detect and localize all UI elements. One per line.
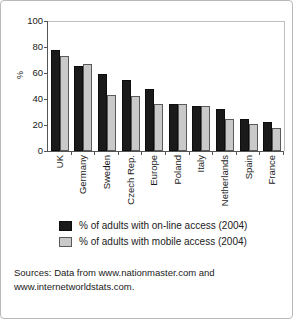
bar-online [216,109,225,151]
x-axis-tick [283,151,284,155]
bar-series-container [48,21,284,151]
bar-group [119,21,143,151]
x-axis-tick-labels: UKGermanySwedenCzech Rep.EuropePolandIta… [47,153,283,215]
chart-figure: % 100806040200 UKGermanySwedenCzech Rep.… [0,0,293,319]
bar-online [263,122,272,151]
x-tick-label: Czech Rep. [118,153,142,215]
x-tick-label-text: Spain [242,155,253,179]
bar-online [98,74,107,151]
x-tick-label-text: Italy [195,155,206,172]
y-axis-tick [44,151,48,152]
bar-mobile [83,64,92,151]
bar-mobile [201,106,210,152]
x-tick-label: France [259,153,283,215]
plot-right-border [284,21,285,151]
chart-legend: % of adults with on-line access (2004) %… [1,220,293,252]
bar-online [74,66,83,151]
bar-mobile [131,96,140,151]
y-tick-label: 60 [21,68,43,78]
y-tick-label: 100 [21,16,43,26]
x-tick-label: Netherlands [212,153,236,215]
x-tick-label-text: Sweden [100,155,111,189]
chart-sources-note: Sources: Data from www.nationmaster.com … [14,266,282,294]
chart-axes [47,21,284,152]
plot-area: % 100806040200 UKGermanySwedenCzech Rep.… [1,1,293,216]
bar-mobile [60,56,69,151]
bar-group [72,21,96,151]
bar-group [166,21,190,151]
x-tick-label: Spain [236,153,260,215]
bar-group [190,21,214,151]
legend-label-online: % of adults with on-line access (2004) [79,220,247,231]
x-tick-label-text: Poland [171,155,182,185]
bar-mobile [154,104,163,151]
bar-mobile [107,95,116,151]
x-tick-label-text: Netherlands [218,155,229,206]
bar-online [192,106,201,152]
bar-group [48,21,72,151]
legend-item-online: % of adults with on-line access (2004) [59,220,293,231]
y-axis-tick [44,73,48,74]
y-tick-label: 40 [21,94,43,104]
legend-label-mobile: % of adults with mobile access (2004) [79,236,247,247]
x-tick-label: Sweden [94,153,118,215]
sources-line-2: www.internetworldstats.com. [14,280,282,294]
sources-line-1: Sources: Data from www.nationmaster.com … [14,266,282,280]
bar-group [237,21,261,151]
x-tick-label: Germany [71,153,95,215]
legend-item-mobile: % of adults with mobile access (2004) [59,236,293,247]
bar-mobile [272,128,281,151]
x-tick-label-text: Czech Rep. [124,155,135,205]
x-tick-label: Italy [189,153,213,215]
y-axis-tick-labels: 100806040200 [19,1,43,216]
y-axis-tick [44,21,48,22]
x-tick-label: Poland [165,153,189,215]
bar-online [169,104,178,151]
x-tick-label-text: France [266,155,277,185]
bar-online [145,89,154,151]
x-tick-label-text: UK [53,155,64,168]
bar-online [240,119,249,152]
bar-online [51,50,60,151]
legend-swatch-online-icon [59,221,72,231]
y-tick-label: 80 [21,42,43,52]
bar-group [260,21,284,151]
y-tick-label: 0 [21,146,43,156]
y-axis-tick [44,125,48,126]
bar-mobile [178,104,187,151]
bar-online [122,80,131,151]
x-tick-label-text: Germany [77,155,88,194]
bar-group [142,21,166,151]
x-tick-label: Europe [141,153,165,215]
bar-mobile [225,119,234,152]
y-axis-tick [44,47,48,48]
bar-group [95,21,119,151]
bar-group [213,21,237,151]
y-tick-label: 20 [21,120,43,130]
legend-swatch-mobile-icon [59,237,72,247]
x-tick-label-text: Europe [148,155,159,186]
bar-mobile [249,124,258,151]
x-tick-label: UK [47,153,71,215]
y-axis-tick [44,99,48,100]
